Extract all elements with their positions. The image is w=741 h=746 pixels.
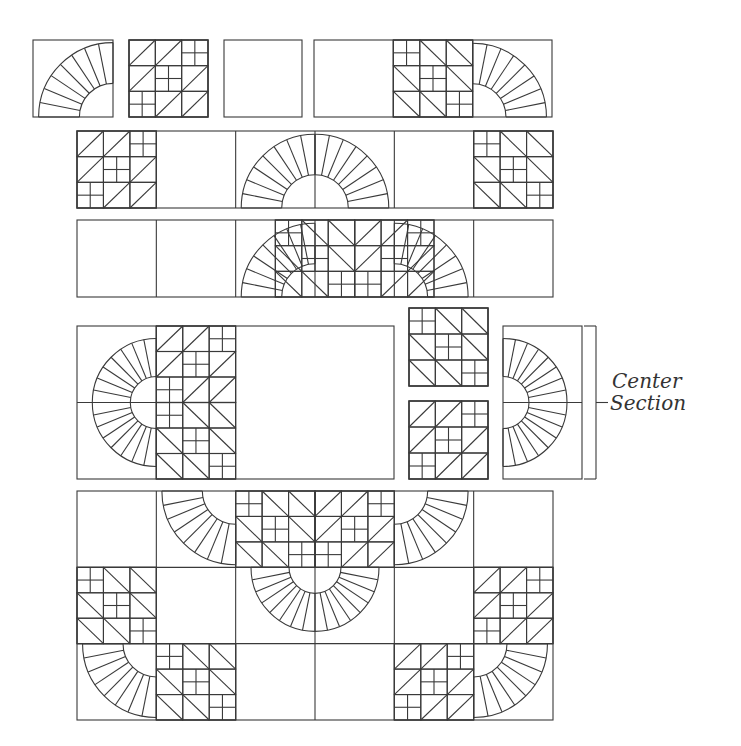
pieced-block xyxy=(393,40,472,117)
quilt-block-row-segment xyxy=(409,401,488,479)
quilt-block-row-segment xyxy=(129,40,208,117)
pieced-block xyxy=(409,308,488,386)
row-1 xyxy=(33,40,552,117)
bottom-section xyxy=(77,491,553,720)
pieced-block xyxy=(156,403,235,480)
center-main-block xyxy=(77,326,394,479)
pieced-block xyxy=(156,644,235,720)
quilt-block-row-segment xyxy=(33,40,113,117)
pieced-block xyxy=(394,644,473,720)
row-3 xyxy=(77,220,553,297)
center-section xyxy=(409,308,488,479)
pieced-block xyxy=(474,131,553,208)
fan-motif xyxy=(315,134,389,208)
fan-motif xyxy=(241,134,315,208)
pieced-block xyxy=(77,567,156,643)
quilt-block-row-segment xyxy=(77,131,553,208)
pieced-block xyxy=(156,326,235,403)
pieced-block xyxy=(409,401,488,479)
center-section-label: Center Section xyxy=(612,370,686,414)
center-section-bracket xyxy=(584,326,608,479)
center-right-block xyxy=(503,326,582,479)
quilt-block-row-segment xyxy=(409,308,488,386)
label-line-2: Section xyxy=(610,392,686,414)
pieced-block xyxy=(315,491,394,567)
label-line-1: Center xyxy=(612,370,686,392)
pieced-block xyxy=(129,40,208,117)
fan-motif xyxy=(474,644,548,718)
pieced-block xyxy=(77,131,156,208)
row-2 xyxy=(77,131,553,208)
quilt-block-row-segment xyxy=(224,40,302,117)
fan-motif xyxy=(394,491,468,565)
fan-motif xyxy=(394,223,468,297)
pieced-block xyxy=(236,491,315,567)
pieced-block xyxy=(474,567,553,643)
fan-motif xyxy=(39,43,113,117)
fan-motif xyxy=(162,491,236,565)
fan-motif xyxy=(83,644,157,718)
quilt-block-row-segment xyxy=(314,40,552,117)
quilt-block-row-segment xyxy=(77,220,553,297)
fan-motif xyxy=(473,43,547,117)
fan-motif xyxy=(241,223,315,297)
